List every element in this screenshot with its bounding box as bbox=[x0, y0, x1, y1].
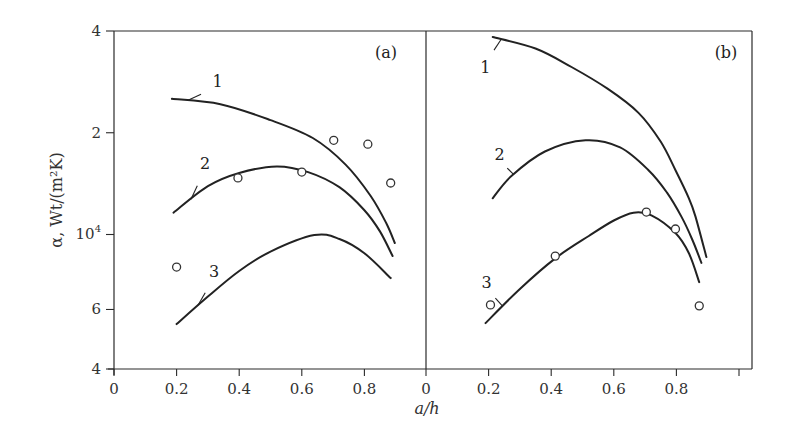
y-tick-label: 104 bbox=[76, 223, 101, 243]
curve-label: 3 bbox=[481, 273, 491, 292]
x-tick-label: 0.8 bbox=[664, 380, 688, 398]
data-point bbox=[234, 174, 242, 182]
y-axis-title: α, Wt/(m²K) bbox=[47, 152, 66, 247]
y-tick-label: 2 bbox=[91, 124, 101, 142]
data-point bbox=[364, 140, 372, 148]
data-point bbox=[173, 263, 181, 271]
y-tick-label: 4 bbox=[91, 22, 101, 40]
x-tick-label: 0 bbox=[421, 380, 431, 398]
curve-label-leader bbox=[507, 168, 513, 174]
panel-b: (b)123 bbox=[480, 37, 737, 323]
x-tick-label: 0.2 bbox=[165, 380, 189, 398]
data-point bbox=[671, 225, 679, 233]
panel-label: (a) bbox=[375, 43, 397, 62]
curve-label-leader bbox=[188, 94, 202, 100]
data-point bbox=[486, 301, 494, 309]
data-point bbox=[551, 252, 559, 260]
data-point bbox=[387, 179, 395, 187]
data-point bbox=[695, 302, 703, 310]
panel-a: (a)123 bbox=[172, 43, 397, 324]
chart: 4610424 00.20.40.60.800.20.40.60.8 (a)12… bbox=[0, 0, 789, 444]
data-point bbox=[642, 208, 650, 216]
x-axis-title: a/h bbox=[414, 399, 439, 418]
curve-label: 2 bbox=[200, 154, 210, 173]
data-point bbox=[330, 136, 338, 144]
curve-1 bbox=[493, 37, 707, 257]
curve-label: 1 bbox=[480, 58, 490, 77]
x-tick-label: 0.2 bbox=[477, 380, 501, 398]
x-axis: 00.20.40.60.800.20.40.60.8 bbox=[109, 369, 739, 398]
y-tick-label: 6 bbox=[91, 300, 101, 318]
curve-3 bbox=[486, 212, 700, 323]
x-tick-label: 0.6 bbox=[290, 380, 314, 398]
x-tick-label: 0.4 bbox=[539, 380, 563, 398]
y-tick-label: 4 bbox=[91, 360, 101, 378]
data-point bbox=[298, 168, 306, 176]
y-axis: 4610424 bbox=[76, 22, 114, 378]
x-tick-label: 0.4 bbox=[227, 380, 251, 398]
curve-label: 3 bbox=[209, 262, 219, 281]
curve-label: 2 bbox=[494, 145, 504, 164]
plot-frame bbox=[108, 31, 752, 375]
curve-label-leader bbox=[494, 39, 501, 50]
x-tick-label: 0 bbox=[109, 380, 119, 398]
curve-label-leader bbox=[495, 298, 502, 306]
panel-label: (b) bbox=[715, 43, 738, 62]
x-tick-label: 0.8 bbox=[352, 380, 376, 398]
panels: (a)123(b)123 bbox=[172, 37, 737, 324]
curve-label: 1 bbox=[212, 72, 222, 91]
x-tick-label: 0.6 bbox=[602, 380, 626, 398]
